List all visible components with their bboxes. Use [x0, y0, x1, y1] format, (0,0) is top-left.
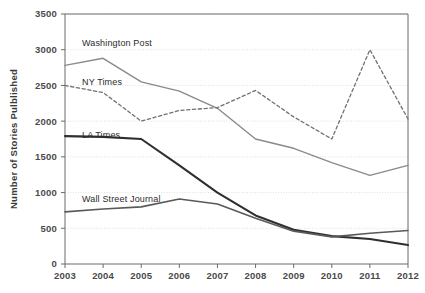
series-line-la-times: [65, 136, 408, 245]
series-line-washington-post: [65, 58, 408, 175]
y-tick-label-0: 0: [52, 258, 57, 269]
y-tick-label-3000: 3000: [35, 44, 57, 55]
x-tick-label-2005: 2005: [130, 270, 152, 281]
y-tick-label-2500: 2500: [35, 80, 57, 91]
y-tick-label-1000: 1000: [35, 187, 57, 198]
series-label-ny-times: NY Times: [82, 77, 122, 87]
x-tick-label-2007: 2007: [206, 270, 228, 281]
chart-canvas: Number of Stories Pulblished 05001000150…: [0, 0, 425, 293]
series-label-wall-street-journal: Wall Street Journal: [82, 194, 161, 204]
x-axis-ticks: 2003200420052006200720082009201020112012: [54, 264, 419, 281]
x-tick-label-2004: 2004: [92, 270, 114, 281]
line-chart-figure: Number of Stories Pulblished 05001000150…: [0, 0, 425, 293]
y-axis-title-text: Number of Stories Pulblished: [8, 69, 19, 209]
y-tick-label-3500: 3500: [35, 8, 57, 19]
y-tick-label-2000: 2000: [35, 116, 57, 127]
y-axis-ticks: 0500100015002000250030003500: [35, 8, 65, 269]
x-tick-label-2011: 2011: [359, 270, 381, 281]
series-label-la-times: LA Times: [82, 130, 121, 140]
series-line-ny-times: [65, 50, 408, 139]
x-tick-label-2009: 2009: [283, 270, 305, 281]
x-tick-label-2008: 2008: [245, 270, 267, 281]
x-tick-label-2006: 2006: [168, 270, 190, 281]
y-tick-label-1500: 1500: [35, 151, 57, 162]
y-axis-title: Number of Stories Pulblished: [8, 69, 19, 209]
series-label-washington-post: Washington Post: [82, 38, 152, 48]
x-tick-label-2012: 2012: [397, 270, 419, 281]
x-tick-label-2003: 2003: [54, 270, 76, 281]
x-tick-label-2010: 2010: [321, 270, 343, 281]
y-tick-label-500: 500: [41, 223, 57, 234]
